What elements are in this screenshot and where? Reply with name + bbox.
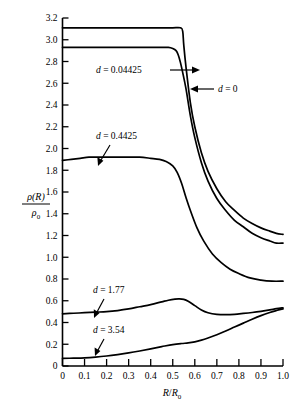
x-tick-label: 0 — [60, 371, 65, 381]
x-tick-label: 0.7 — [211, 371, 223, 381]
x-axis-title-numerator: R — [162, 387, 169, 398]
y-tick-label: 0.6 — [46, 296, 58, 306]
y-tick-label: 0.2 — [46, 340, 58, 350]
x-tick-label: 0.2 — [101, 371, 113, 381]
x-tick-label: 0.8 — [233, 371, 245, 381]
annotation-label-d-354: 3.54 — [108, 325, 125, 335]
y-axis-title-denominator-sub: 0 — [37, 213, 41, 221]
y-tick-label: 2.2 — [46, 122, 58, 132]
y-tick-label: 1.6 — [46, 187, 58, 197]
x-tick-label: 0.1 — [79, 371, 91, 381]
y-tick-label: 0.4 — [46, 318, 58, 328]
y-tick-label: 2.4 — [46, 100, 58, 110]
y-tick-label: 1.0 — [46, 253, 58, 263]
y-tick-label: 2.6 — [46, 79, 58, 89]
x-tick-label: 0.9 — [255, 371, 267, 381]
x-tick-label: 1.0 — [277, 371, 289, 381]
x-tick-label: 0.3 — [123, 371, 135, 381]
y-tick-label: 1.8 — [46, 166, 58, 176]
x-tick-label: 0.4 — [145, 371, 157, 381]
svg-text:d = 0.4425: d = 0.4425 — [96, 131, 137, 141]
y-tick-label: 2.0 — [46, 144, 58, 154]
svg-text:d = 0.04425: d = 0.04425 — [96, 65, 142, 75]
svg-text:ρ(R): ρ(R) — [26, 191, 45, 203]
y-tick-label: 0.8 — [46, 274, 58, 284]
svg-text:d = 1.77: d = 1.77 — [93, 285, 125, 295]
annotation-label-d-177: 1.77 — [108, 285, 125, 295]
x-tick-label: 0.5 — [167, 371, 179, 381]
y-axis-title-numerator-arg: (R) — [32, 191, 45, 203]
svg-text:d = 0: d = 0 — [218, 84, 238, 94]
chart-figure: 00.20.40.60.81.01.21.41.61.82.02.22.42.6… — [0, 0, 295, 412]
y-tick-label: 2.8 — [46, 57, 58, 67]
x-axis-title-denominator-sub: 0 — [178, 393, 182, 401]
x-axis-title-denominator: R — [171, 387, 178, 398]
annotation-label-d-004425: 0.04425 — [111, 65, 142, 75]
y-tick-label: 3.2 — [46, 13, 58, 23]
y-tick-label: 1.2 — [46, 231, 58, 241]
density-profile-chart: 00.20.40.60.81.01.21.41.61.82.02.22.42.6… — [0, 0, 295, 412]
y-tick-label: 1.4 — [46, 209, 58, 219]
y-tick-label: 0 — [53, 361, 58, 371]
x-tick-label: 0.6 — [189, 371, 201, 381]
svg-text:d = 3.54: d = 3.54 — [93, 325, 125, 335]
annotation-label-d-0: 0 — [233, 84, 238, 94]
annotation-label-d-04425: 0.4425 — [111, 131, 137, 141]
y-tick-label: 3.0 — [46, 35, 58, 45]
